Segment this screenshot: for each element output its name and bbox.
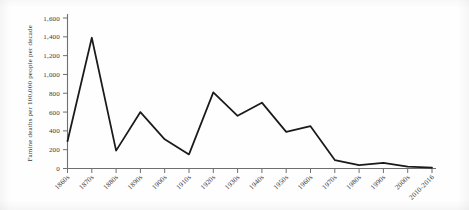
x-axis-tick-label: 1940s [248, 173, 266, 191]
y-axis-tick-label: 400 [49, 127, 60, 135]
x-axis-tick-label: 1970s [321, 173, 339, 191]
y-axis-tick-label: 200 [49, 146, 60, 154]
x-axis-tick-label: 1890s [126, 173, 144, 191]
x-axis-tick-label: 1870s [78, 173, 96, 191]
line-chart: 02004006008001,0001,2001,4001,6001860s18… [0, 0, 469, 210]
x-axis-tick-label: 1910s [175, 173, 193, 191]
y-axis-tick-label: 600 [49, 109, 60, 117]
data-series-line [68, 38, 433, 168]
x-axis-tick-label: 1930s [223, 173, 241, 191]
x-axis-tick-label: 1950s [272, 173, 290, 191]
y-axis-tick-label: 1,200 [43, 52, 60, 60]
x-axis-tick-label: 1880s [102, 173, 120, 191]
x-axis-tick-label: 1900s [150, 173, 168, 191]
y-axis-tick-label: 1,600 [43, 15, 60, 23]
y-axis-tick-label: 1,000 [43, 71, 60, 79]
x-axis-tick-label: 1860s [53, 173, 71, 191]
y-axis-title: Famine deaths per 100,000 people per dec… [26, 25, 34, 162]
y-axis-tick-label: 800 [49, 90, 60, 98]
x-axis-tick-label: 1960s [296, 173, 314, 191]
x-axis-tick-label: 1990s [369, 173, 387, 191]
x-axis-tick-label: 2010-2016 [408, 173, 437, 202]
y-axis-tick-label: 0 [56, 165, 60, 173]
x-axis-tick-label: 1920s [199, 173, 217, 191]
x-axis-tick-label: 2000s [393, 173, 411, 191]
x-axis-tick-label: 1980s [345, 173, 363, 191]
y-axis-tick-label: 1,400 [43, 33, 60, 41]
chart-figure: 02004006008001,0001,2001,4001,6001860s18… [0, 0, 469, 210]
